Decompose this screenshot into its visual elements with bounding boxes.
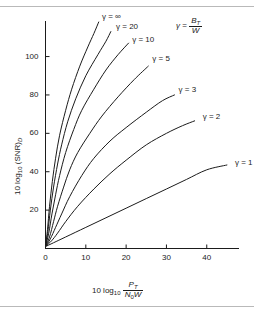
y-axis-title: 10 log10 (SNR)D bbox=[13, 138, 25, 195]
curve-label: γ = ∞ bbox=[102, 12, 121, 21]
axes-group bbox=[46, 21, 240, 249]
curve-gamma-5 bbox=[46, 66, 149, 246]
x-axis-ticks bbox=[46, 245, 207, 249]
y-axis-title-sub: 10 bbox=[17, 167, 23, 174]
y-tick-label: 100 bbox=[0, 53, 39, 61]
gamma-symbol: γ bbox=[176, 21, 180, 30]
x-tick-label: 20 bbox=[122, 254, 131, 262]
curve-gamma-2 bbox=[46, 121, 195, 247]
figure-container: 010203040 20406080100 γ = 1γ = 2γ = 3γ =… bbox=[0, 0, 254, 313]
curve-label: γ = 10 bbox=[132, 35, 154, 44]
gamma-equals-sign: = bbox=[182, 21, 187, 30]
x-axis-title: 10 log10 PT N0W bbox=[92, 281, 143, 301]
y-axis-title-body-sub: D bbox=[17, 138, 23, 142]
y-axis-title-prefix: 10 log bbox=[13, 173, 22, 195]
curves-group bbox=[46, 22, 227, 247]
y-tick-label: 80 bbox=[0, 91, 39, 99]
y-axis-title-body: (SNR) bbox=[13, 142, 22, 164]
y-tick-label: 20 bbox=[0, 206, 39, 214]
x-axis-title-prefix: 10 log bbox=[92, 286, 114, 295]
plot-canvas bbox=[0, 0, 254, 313]
y-tick-label: 60 bbox=[0, 129, 39, 137]
gamma-definition-annotation: γ = BT W bbox=[176, 17, 202, 36]
y-axis-ticks bbox=[46, 57, 50, 211]
x-axis-title-sub: 10 bbox=[114, 290, 121, 296]
curve-label: γ = 3 bbox=[179, 85, 197, 94]
x-axis-fraction-denominator: N0W bbox=[123, 291, 144, 300]
gamma-fraction-denominator: W bbox=[189, 27, 202, 35]
x-tick-label: 40 bbox=[202, 254, 211, 262]
x-tick-label: 10 bbox=[81, 254, 90, 262]
curve-label: γ = 1 bbox=[235, 158, 253, 167]
curve-label: γ = 20 bbox=[116, 22, 138, 31]
curve-label: γ = 2 bbox=[203, 112, 221, 121]
gamma-definition-fraction: BT W bbox=[189, 17, 202, 36]
curve-label: γ = 5 bbox=[152, 54, 170, 63]
x-axis-title-fraction: PT N0W bbox=[123, 281, 144, 301]
curve-gamma-1 bbox=[46, 165, 227, 247]
x-tick-label: 0 bbox=[43, 254, 47, 262]
x-tick-label: 30 bbox=[162, 254, 171, 262]
curve-gamma-3 bbox=[46, 95, 175, 247]
